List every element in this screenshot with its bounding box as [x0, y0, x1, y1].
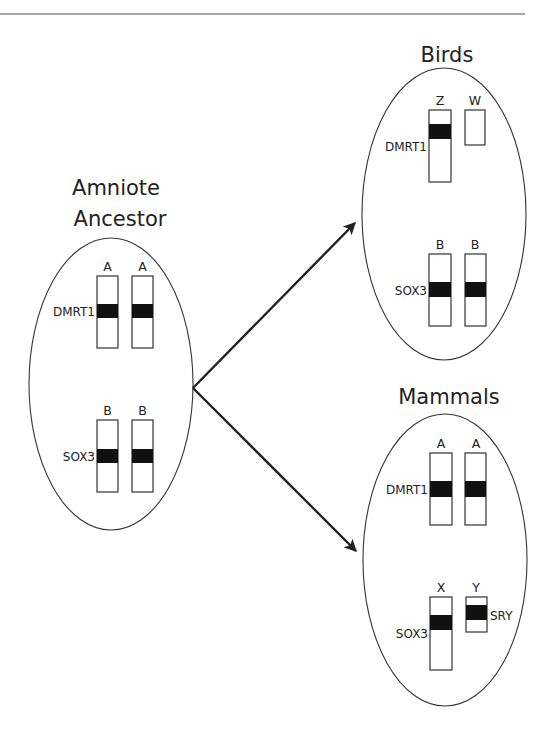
- chromosome-label-y: Y: [471, 580, 480, 595]
- chromosome-label: A: [103, 259, 112, 274]
- chromosome-label: B: [138, 403, 147, 418]
- gene-band: [97, 449, 118, 463]
- gene-label-sry: SRY: [490, 609, 513, 623]
- x-chromosome: [430, 597, 452, 670]
- gene-band: [465, 282, 486, 297]
- birds-title: Birds: [421, 43, 474, 67]
- mammals-title: Mammals: [398, 385, 500, 409]
- birds-group: Birds Z W DMRT1 B B SOX3: [362, 43, 526, 360]
- gene-label-dmrt1: DMRT1: [385, 140, 427, 154]
- arrow-to-birds: [193, 223, 355, 388]
- ancestor-autosome-pair-b: B B SOX3: [63, 403, 153, 492]
- chromosome-label-x: X: [437, 580, 446, 595]
- gene-label-dmrt1: DMRT1: [386, 483, 428, 497]
- gene-band: [430, 615, 452, 630]
- birds-sex-chromosome-pair: Z W DMRT1: [385, 93, 485, 182]
- ancestor-title-line2: Ancestor: [74, 207, 167, 231]
- gene-band: [465, 481, 486, 497]
- chromosome-label: B: [103, 403, 112, 418]
- gene-band: [429, 124, 451, 139]
- w-chromosome: [465, 110, 485, 145]
- z-chromosome: [429, 110, 451, 182]
- gene-band: [97, 304, 118, 318]
- mammals-group: Mammals A A DMRT1 X Y SOX3 SRY: [363, 385, 527, 706]
- gene-band: [132, 304, 153, 318]
- gene-label-sox3: SOX3: [63, 450, 95, 464]
- sex-chromosome-evolution-diagram: Amniote Ancestor A A DMRT1 B B SOX3 Bird…: [0, 0, 556, 746]
- gene-band: [466, 605, 487, 620]
- mammals-sex-chromosome-pair: X Y SOX3 SRY: [396, 580, 513, 670]
- arrow-to-mammals: [193, 388, 356, 551]
- gene-band: [430, 481, 452, 497]
- chromosome-label: A: [437, 436, 446, 451]
- mammals-autosome-pair-a: A A DMRT1: [386, 436, 486, 525]
- ancestor-autosome-pair-a: A A DMRT1: [53, 259, 153, 348]
- gene-label-dmrt1: DMRT1: [53, 305, 95, 319]
- ancestor-title-line1: Amniote: [72, 176, 160, 200]
- chromosome-label: B: [436, 237, 445, 252]
- chromosome-label-z: Z: [436, 93, 445, 108]
- gene-label-sox3: SOX3: [395, 284, 427, 298]
- birds-autosome-pair-b: B B SOX3: [395, 237, 486, 326]
- gene-label-sox3: SOX3: [396, 627, 428, 641]
- gene-band: [429, 282, 451, 297]
- gene-band: [132, 449, 153, 463]
- ancestor-group: Amniote Ancestor A A DMRT1 B B SOX3: [29, 176, 193, 530]
- chromosome-label: B: [471, 237, 480, 252]
- chromosome-label: A: [472, 436, 481, 451]
- chromosome-label: A: [138, 259, 147, 274]
- chromosome-label-w: W: [469, 93, 481, 108]
